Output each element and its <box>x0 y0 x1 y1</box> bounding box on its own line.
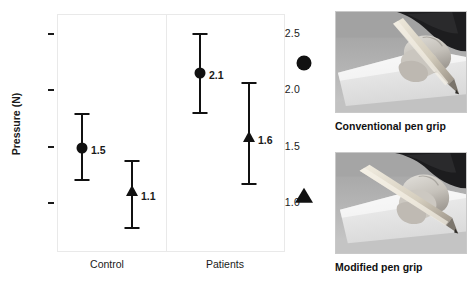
legend-marker-triangle-icon <box>295 188 313 203</box>
x-tick-label-patients: Patients <box>206 258 244 270</box>
errorbar-cap-top-patients-conventional <box>193 33 208 35</box>
datapoint-control-conventional <box>77 143 88 154</box>
x-tick-label-control: Control <box>90 258 124 270</box>
photo-caption-conventional: Conventional pen grip <box>335 120 467 132</box>
photo-block-modified: Modified pen grip <box>335 152 467 273</box>
y-tick-mark-1-0 <box>48 202 54 204</box>
chart: Pressure (N) 2.5 2.0 1.5 1.0 Control Pat… <box>0 0 300 287</box>
errorbar-cap-top-control-conventional <box>75 113 90 115</box>
datapoint-patients-modified <box>243 131 255 142</box>
errorbar-cap-bottom-control-modified <box>125 227 140 229</box>
legend-marker-circle-icon <box>297 56 312 71</box>
datapoint-label-patients-conventional: 2.1 <box>209 69 224 81</box>
datapoint-label-patients-modified: 1.6 <box>258 134 273 146</box>
errorbar-cap-top-patients-modified <box>242 82 257 84</box>
y-tick-mark-2-0 <box>48 89 54 91</box>
photo-conventional-pen-grip <box>335 11 467 113</box>
datapoint-patients-conventional <box>195 68 206 79</box>
photo-block-conventional: Conventional pen grip <box>335 11 467 132</box>
datapoint-label-control-conventional: 1.5 <box>91 144 106 156</box>
y-tick-mark-2-5 <box>48 33 54 35</box>
chart-panel-control <box>57 14 166 252</box>
datapoint-label-control-modified: 1.1 <box>141 190 156 202</box>
y-axis-label: Pressure (N) <box>10 64 22 184</box>
errorbar-cap-bottom-patients-conventional <box>193 112 208 114</box>
legend <box>290 0 320 287</box>
y-tick-mark-1-5 <box>48 146 54 148</box>
photo-modified-pen-grip <box>335 152 467 254</box>
figure-pen-grip-pressure: Pressure (N) 2.5 2.0 1.5 1.0 Control Pat… <box>0 0 475 287</box>
errorbar-cap-bottom-patients-modified <box>242 183 257 185</box>
photo-caption-modified: Modified pen grip <box>335 261 467 273</box>
chart-panel-patients <box>166 14 285 252</box>
errorbar-cap-bottom-control-conventional <box>75 179 90 181</box>
errorbar-cap-top-control-modified <box>125 160 140 162</box>
datapoint-control-modified <box>126 185 138 196</box>
